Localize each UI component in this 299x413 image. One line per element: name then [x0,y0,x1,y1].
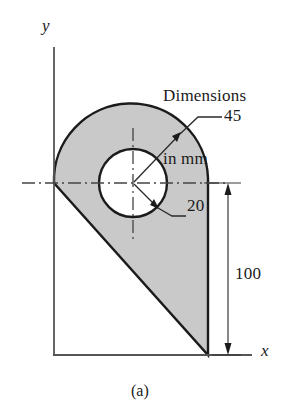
dimension-label-20: 20 [187,196,205,216]
x-axis-label: x [261,341,269,361]
dim-100-arrowhead-bottom [225,343,232,355]
figure-container: Dimensions in mm 45 20 100 y x (a) [0,0,299,413]
engineering-drawing [0,0,299,413]
y-axis-label: y [42,16,50,36]
dimensions-note-line-2: in mm [163,148,246,169]
dimension-label-45: 45 [224,106,242,126]
dimensions-note: Dimensions in mm [163,43,246,211]
dimensions-note-line-1: Dimensions [163,85,246,106]
figure-caption: (a) [131,382,149,400]
dimension-label-100: 100 [235,264,261,284]
